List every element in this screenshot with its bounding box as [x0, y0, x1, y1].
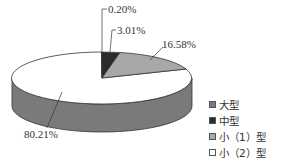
legend-item-medium: 中型: [209, 112, 266, 128]
legend-item-large: 大型: [209, 96, 266, 112]
legend-swatch-icon: [209, 133, 216, 140]
label-small-1: 16.58%: [162, 38, 196, 50]
pie-top: [12, 52, 192, 104]
label-large: 0.20%: [108, 3, 136, 15]
legend-label: 小（1）型: [219, 129, 266, 144]
label-medium: 3.01%: [117, 24, 145, 36]
legend-item-small-1: 小（1）型: [209, 128, 266, 144]
legend-label: 中型: [219, 113, 239, 128]
label-small-2: 80.21%: [24, 128, 58, 140]
legend-label: 小（2）型: [219, 145, 266, 160]
legend-swatch-icon: [209, 117, 216, 124]
legend-swatch-icon: [209, 149, 216, 156]
legend: 大型 中型 小（1）型 小（2）型: [209, 96, 266, 160]
legend-label: 大型: [219, 97, 239, 112]
legend-item-small-2: 小（2）型: [209, 144, 266, 160]
legend-swatch-icon: [209, 101, 216, 108]
